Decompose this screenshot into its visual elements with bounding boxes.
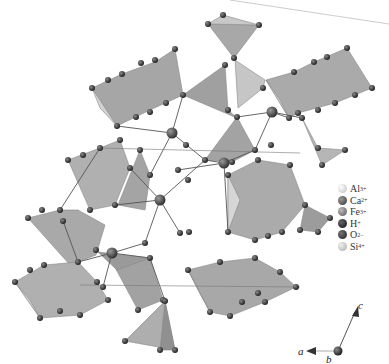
legend-label: Fe <box>350 206 360 217</box>
legend-charge: 2+ <box>361 197 367 203</box>
legend-item-al: Al3+ <box>338 183 368 195</box>
legend: Al3+ Ca2+ Fe3+ H+ O2− Si4+ <box>338 183 368 252</box>
legend-label: O <box>350 229 357 240</box>
legend-label: Al <box>350 183 360 194</box>
legend-charge: + <box>357 220 360 226</box>
crystal-structure-diagram <box>0 0 389 364</box>
fe-ion-icon <box>338 207 347 216</box>
legend-item-h: H+ <box>338 218 368 230</box>
si-ion-icon <box>338 242 347 251</box>
o-ion-icon <box>338 230 347 239</box>
legend-item-si: Si4+ <box>338 241 368 253</box>
axis-label-a: a <box>298 345 304 357</box>
legend-label: Si <box>350 241 358 252</box>
h-ion-icon <box>338 219 347 228</box>
legend-charge: 4+ <box>358 243 364 249</box>
polyhedra-layer <box>15 15 372 350</box>
legend-charge: 2− <box>357 232 363 238</box>
ca-ion-icon <box>338 196 347 205</box>
legend-label: Ca <box>350 195 361 206</box>
legend-charge: 3+ <box>360 209 366 215</box>
al-ion-icon <box>338 184 347 193</box>
axis-label-c: c <box>358 299 363 311</box>
legend-item-fe: Fe3+ <box>338 206 368 218</box>
axis-indicator <box>306 306 359 356</box>
legend-charge: 3+ <box>360 186 366 192</box>
axis-label-b: b <box>326 353 332 364</box>
legend-item-o: O2− <box>338 229 368 241</box>
cell-edge-line <box>230 0 389 24</box>
legend-label: H <box>350 218 357 229</box>
legend-item-ca: Ca2+ <box>338 195 368 207</box>
